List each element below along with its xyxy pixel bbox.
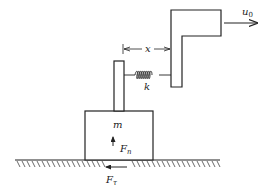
displacement-label: x	[145, 43, 151, 54]
spring	[124, 71, 171, 79]
stick-slip-diagram: m k x u0 Fn Fτ	[0, 0, 264, 192]
driver-bracket	[171, 10, 221, 87]
velocity-label: u0	[242, 6, 253, 19]
friction-force-label: Fτ	[105, 174, 117, 187]
ground	[15, 160, 220, 167]
mass-label: m	[113, 119, 122, 130]
ground-hatching	[17, 161, 220, 167]
post	[114, 61, 124, 111]
spring-constant-label: k	[144, 81, 150, 92]
